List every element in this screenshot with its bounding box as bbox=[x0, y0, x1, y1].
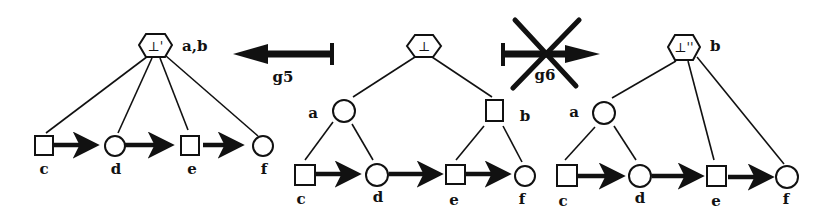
leaf-label: e bbox=[711, 192, 721, 210]
leaf-label: c bbox=[558, 192, 567, 210]
leaf-label: e bbox=[449, 191, 459, 209]
leaf-label: d bbox=[635, 189, 646, 207]
g6-label: g6 bbox=[535, 66, 556, 84]
leaf-circle-node bbox=[629, 165, 651, 187]
leaf-square-node bbox=[446, 165, 465, 184]
g6-operation-arrow-blocked: g6 bbox=[503, 20, 600, 88]
leaf-label: d bbox=[111, 160, 122, 178]
leaf-label: c bbox=[296, 190, 305, 208]
leaf-label: c bbox=[39, 160, 48, 178]
inner-circle-node bbox=[333, 100, 355, 122]
leaf-label: d bbox=[373, 188, 384, 206]
root-symbol: ⊥ bbox=[418, 39, 430, 54]
inner-label: a bbox=[569, 103, 579, 121]
leaf-circle-node bbox=[366, 164, 388, 186]
leaf-label: f bbox=[783, 190, 791, 208]
inner-circle-node bbox=[593, 102, 615, 124]
diagram-canvas: ⊥' a,b c d e f g5 ⊥ a b bbox=[0, 0, 828, 218]
leaf-label: f bbox=[519, 190, 527, 208]
leaf-circle-node bbox=[253, 136, 273, 156]
right-panel: ⊥'' b a c d e f bbox=[557, 35, 798, 210]
leaf-square-node bbox=[181, 136, 199, 155]
leaf-circle-node bbox=[776, 166, 798, 188]
leaf-square-node bbox=[295, 165, 315, 185]
g5-label: g5 bbox=[273, 68, 294, 86]
leaf-label: e bbox=[187, 160, 197, 178]
root-label: a,b bbox=[182, 37, 207, 55]
leaf-label: f bbox=[261, 160, 269, 178]
leaf-circle-node bbox=[515, 166, 535, 186]
leaf-circle-node bbox=[105, 136, 125, 156]
inner-label: b bbox=[520, 107, 531, 125]
leaf-square-node bbox=[35, 136, 53, 155]
inner-label: a bbox=[308, 104, 318, 122]
leaf-square-node bbox=[707, 166, 726, 186]
root-label: b bbox=[710, 37, 721, 55]
root-symbol: ⊥' bbox=[148, 39, 164, 54]
leaf-square-node bbox=[557, 165, 577, 186]
root-symbol: ⊥'' bbox=[674, 40, 693, 55]
inner-square-node bbox=[486, 100, 503, 121]
left-panel: ⊥' a,b c d e f bbox=[35, 34, 273, 178]
g5-operation-arrow: g5 bbox=[233, 43, 332, 86]
